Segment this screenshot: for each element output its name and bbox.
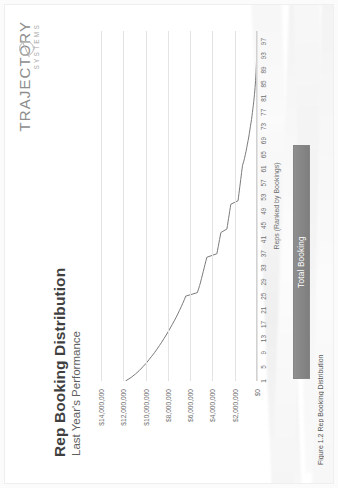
gridline (190, 31, 191, 381)
circle-slash-icon (19, 41, 34, 56)
x-tick-label: 61 (260, 165, 267, 172)
chart-legend[interactable]: Total Booking (293, 145, 310, 379)
x-tick-label: 25 (260, 293, 267, 300)
x-axis-title: Reps (Ranked by Bookings) (273, 31, 280, 381)
x-tick-label: 69 (260, 137, 267, 144)
brand-tagline: SYSTEMS (34, 23, 41, 131)
y-tick-label: $0 (254, 389, 261, 396)
y-tick-label: $12,000,000 (120, 389, 127, 426)
x-tick-label: 29 (260, 278, 267, 285)
gridline (235, 31, 236, 381)
x-tick-label: 41 (260, 236, 267, 243)
x-tick-label: 81 (260, 95, 267, 102)
presentation-slide: TRAJECTORY SYSTEMS Rep Booking Distribut… (4, 4, 334, 484)
x-tick-label: 85 (260, 80, 267, 87)
y-tick-label: $10,000,000 (142, 389, 149, 426)
x-tick-label: 45 (260, 222, 267, 229)
gridline (257, 31, 258, 381)
figure-caption: Figure 1.2 Rep Booking Distribution (317, 354, 324, 465)
x-tick-label: 49 (260, 208, 267, 215)
x-tick-label: 21 (260, 307, 267, 314)
gridline (146, 31, 147, 381)
gridline (212, 31, 213, 381)
x-tick-label: 5 (260, 365, 267, 369)
gridline (123, 31, 124, 381)
y-tick-label: $8,000,000 (164, 389, 171, 422)
plot-region (101, 31, 257, 381)
x-tick-label: 73 (260, 123, 267, 130)
x-tick-label: 77 (260, 109, 267, 116)
x-tick-label: 37 (260, 250, 267, 257)
x-tick-label: 97 (260, 38, 267, 45)
x-tick-label: 89 (260, 66, 267, 73)
x-tick-label: 53 (260, 194, 267, 201)
total-booking-line (101, 31, 257, 381)
x-tick-label: 1 (260, 379, 267, 383)
chart-area: $0$2,000,000$4,000,000$6,000,000$8,000,0… (101, 27, 279, 457)
gridline (101, 31, 102, 381)
y-axis-labels: $0$2,000,000$4,000,000$6,000,000$8,000,0… (101, 385, 257, 457)
x-axis-labels: 1591317212529333741454953576165697377818… (260, 31, 272, 381)
x-tick-label: 9 (260, 351, 267, 355)
legend-item-total-booking: Total Booking (297, 236, 306, 288)
x-tick-label: 33 (260, 264, 267, 271)
brand-logo: TRAJECTORY SYSTEMS (17, 21, 41, 131)
y-tick-label: $4,000,000 (209, 389, 216, 422)
slide-page: TRAJECTORY SYSTEMS Rep Booking Distribut… (0, 0, 338, 488)
y-tick-label: $14,000,000 (98, 389, 105, 426)
page-subtitle: Last Year's Performance (70, 331, 82, 456)
x-tick-label: 93 (260, 52, 267, 59)
page-title: Rep Booking Distribution (51, 268, 69, 457)
x-tick-label: 57 (260, 179, 267, 186)
brand-name: TRAJECTORY (17, 21, 32, 131)
x-tick-label: 17 (260, 321, 267, 328)
x-axis-line (256, 31, 257, 381)
y-tick-label: $2,000,000 (231, 389, 238, 422)
gridline (168, 31, 169, 381)
x-tick-label: 13 (260, 335, 267, 342)
x-tick-label: 65 (260, 151, 267, 158)
y-tick-label: $6,000,000 (187, 389, 194, 422)
